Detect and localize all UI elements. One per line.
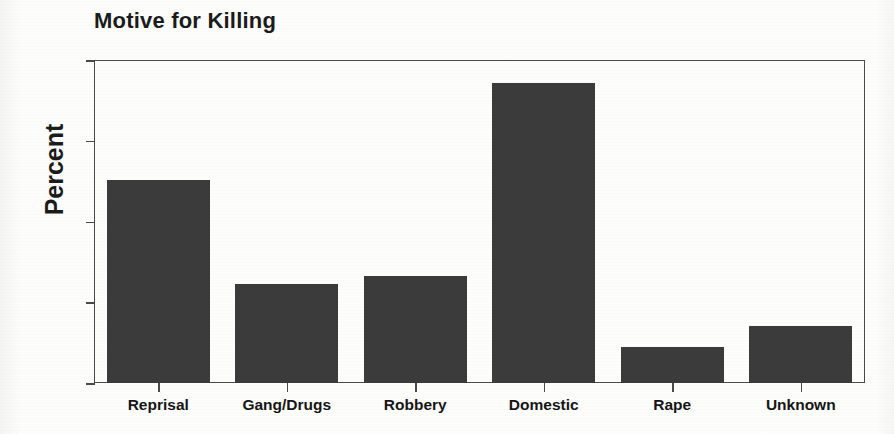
bar-rape	[621, 347, 724, 383]
y-tick-mark	[86, 383, 95, 385]
y-tick-mark	[86, 141, 95, 143]
x-tick-label: Rape	[608, 396, 737, 414]
y-axis-label: Percent	[40, 95, 69, 245]
x-tick-mark	[287, 383, 289, 392]
x-tick-mark	[672, 383, 674, 392]
bar-chart-figure: Motive for Killing Percent 010203040 Rep…	[0, 0, 894, 434]
x-tick-label: Domestic	[480, 396, 609, 414]
bar-robbery	[364, 276, 467, 383]
y-tick-mark	[86, 60, 95, 62]
x-tick-label: Gang/Drugs	[223, 396, 352, 414]
y-tick-mark	[86, 222, 95, 224]
x-tick-mark	[415, 383, 417, 392]
page-title: Motive for Killing	[94, 8, 276, 34]
bar-reprisal	[107, 180, 210, 383]
x-tick-label: Robbery	[351, 396, 480, 414]
x-tick-mark	[801, 383, 803, 392]
bar-unknown	[749, 326, 852, 383]
x-tick-label: Reprisal	[94, 396, 223, 414]
bar-domestic	[492, 83, 595, 383]
bar-gang-drugs	[235, 284, 338, 383]
x-tick-label: Unknown	[737, 396, 866, 414]
x-tick-mark	[158, 383, 160, 392]
y-tick-mark	[86, 302, 95, 304]
x-tick-mark	[544, 383, 546, 392]
